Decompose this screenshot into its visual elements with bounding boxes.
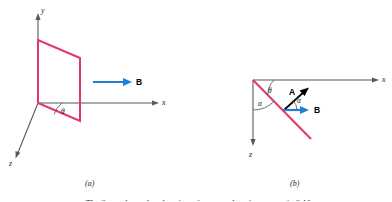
panel-a-x-axis-label: x — [161, 98, 166, 107]
figure-caption-text: The figure shows the edge view of a curr… — [86, 199, 312, 202]
panel-a-group: y x z θ B — [8, 6, 166, 168]
panel-a-z-axis-label: z — [8, 159, 13, 168]
panel-a-caption: (a) — [85, 179, 95, 188]
panel-a-y-axis-label: y — [40, 6, 45, 15]
physics-figure: y x z θ B — [0, 0, 392, 201]
figure-canvas: y x z θ B — [0, 0, 392, 201]
panel-b-z-axis-label: z — [248, 150, 253, 159]
panel-b-caption: (b) — [290, 179, 300, 188]
panel-a-x-axis — [38, 100, 159, 105]
panel-b-alpha-axis-label: α — [258, 99, 263, 108]
panel-b-group: x z θ α α A B — [248, 75, 386, 159]
panel-a-z-axis — [16, 103, 39, 159]
current-loop-shape — [38, 40, 80, 121]
panel-a-b-label: B — [136, 77, 142, 87]
figure-caption-strip: FIGURE 21-2 The figure shows the edge vi… — [0, 193, 392, 201]
panel-b-theta-label: θ — [268, 86, 272, 95]
panel-b-x-axis-label: x — [381, 75, 386, 84]
panel-b-a-label: A — [289, 87, 295, 97]
panel-b-b-label: B — [314, 105, 320, 115]
panel-b-alpha-vector-label: α — [297, 96, 302, 105]
panel-b-alpha-axis-angle — [253, 101, 274, 110]
figure-caption-number: FIGURE 21-2 — [36, 199, 82, 202]
panel-a-b-vector — [93, 78, 132, 86]
panel-b-z-axis — [250, 80, 255, 146]
panel-a-theta-label: θ — [61, 107, 65, 116]
